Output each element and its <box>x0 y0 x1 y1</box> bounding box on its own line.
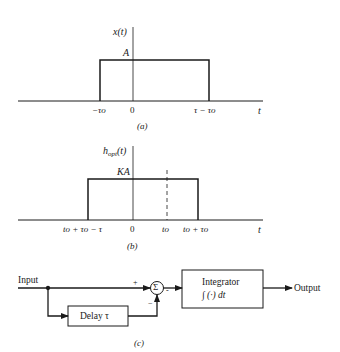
t-label-a: t <box>258 106 261 116</box>
integrator-block <box>182 270 263 308</box>
diagram-canvas <box>0 0 340 352</box>
minus-sign-right: - <box>166 286 169 295</box>
integrator-formula: ∫ (·) dt <box>202 290 225 300</box>
minus-sign-bottom: − <box>148 299 153 308</box>
caption-c: (c) <box>134 338 144 348</box>
integrator-title: Integrator <box>202 277 239 287</box>
panel-a-plot <box>18 27 263 101</box>
panel-c-block-diagram <box>18 270 292 326</box>
plus-sign: + <box>133 278 138 287</box>
y-axis-label-a: x(t) <box>113 27 127 37</box>
tick-to-plus-tau0: to + τo <box>183 225 208 234</box>
panel-b-plot <box>18 146 263 220</box>
tick-tau-minus-tau0: τ − τo <box>194 106 216 115</box>
opt-subscript: opt <box>108 150 117 158</box>
output-label: Output <box>294 283 320 293</box>
caption-b: (b) <box>127 241 138 251</box>
level-label-b: KA <box>117 167 130 177</box>
delay-label: Delay τ <box>80 311 109 321</box>
t-label-b: t <box>258 225 261 235</box>
rect-pulse-a <box>100 60 209 101</box>
delay-feed-line <box>48 288 68 316</box>
tick-zero-a: 0 <box>130 106 135 115</box>
level-label-a: A <box>123 48 129 58</box>
input-label: Input <box>18 275 38 285</box>
tick-neg-tau0: −τo <box>92 106 106 115</box>
summer-symbol: Σ <box>153 282 158 292</box>
tick-to-plus-tau0-minus-tau: to + τo − τ <box>63 225 102 234</box>
tick-to: to <box>162 225 169 234</box>
y-axis-label-b: hopt(t) <box>103 146 126 158</box>
h-arg: (t) <box>117 145 126 156</box>
tick-zero-b: 0 <box>130 225 135 234</box>
rect-pulse-b <box>88 179 198 220</box>
caption-a: (a) <box>137 121 148 131</box>
